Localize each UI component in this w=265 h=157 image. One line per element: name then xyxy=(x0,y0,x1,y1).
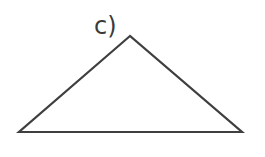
triangle-shape xyxy=(19,36,242,132)
triangle-diagram xyxy=(0,0,265,157)
